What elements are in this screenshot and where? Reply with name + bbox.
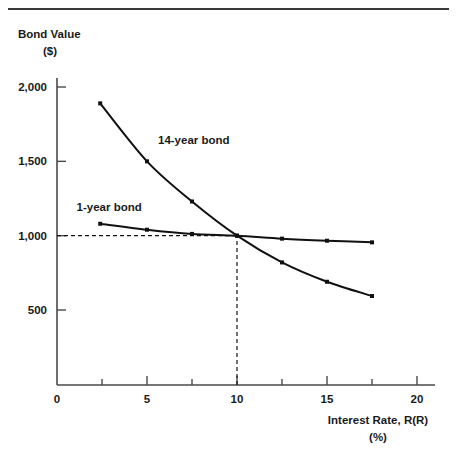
bond-value-chart-figure: 5001,0001,5002,0000510152014-year bond1-…	[0, 0, 457, 461]
